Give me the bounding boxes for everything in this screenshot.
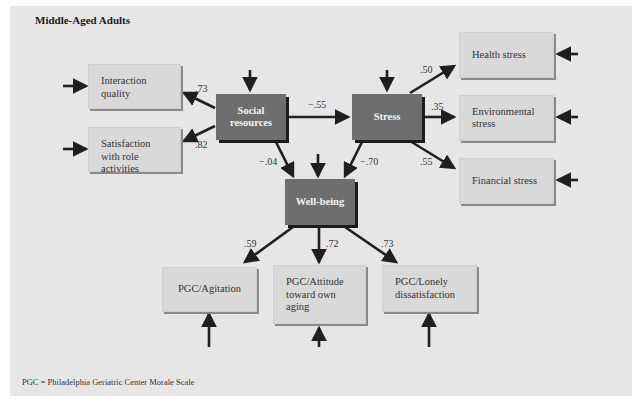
node-label: PGC/Agitation: [178, 283, 241, 296]
coef-wellbeing-attitude: .72: [326, 238, 339, 249]
node-pgc-agitation: PGC/Agitation: [162, 267, 257, 312]
node-label: PGC/Lonely dissatisfaction: [395, 276, 464, 301]
coef-wellbeing-lonely: .73: [381, 238, 394, 249]
node-environmental-stress: Environmental stress: [459, 95, 554, 141]
node-label: Well-being: [296, 196, 344, 209]
coef-social-interaction: .73: [195, 83, 208, 94]
node-stress: Stress: [352, 94, 422, 140]
node-label: Interaction quality: [101, 75, 146, 99]
node-label: Satisfaction with role activities: [101, 138, 151, 174]
node-financial-stress: Financial stress: [459, 158, 554, 204]
node-label: Social resources: [216, 105, 286, 130]
coef-stress-financial: .55: [420, 156, 433, 167]
coef-stress-wellbeing: −.70: [360, 156, 378, 167]
node-health-stress: Health stress: [459, 32, 554, 78]
node-social-resources: Social resources: [216, 94, 286, 140]
coef-stress-environmental: .35: [431, 101, 444, 112]
node-interaction-quality: Interaction quality: [88, 64, 181, 109]
coef-social-wellbeing: −.04: [259, 156, 277, 167]
coef-stress-health: .50: [420, 64, 433, 75]
node-satisfaction-role: Satisfaction with role activities: [88, 127, 181, 172]
node-label: Health stress: [472, 49, 526, 62]
footnote: PGC = Philadelphia Geriatric Center Mora…: [22, 377, 194, 387]
node-pgc-attitude: PGC/Attitude toward own aging: [273, 265, 366, 324]
node-well-being: Well-being: [285, 179, 355, 225]
node-label: Stress: [374, 111, 401, 124]
node-pgc-lonely: PGC/Lonely dissatisfaction: [382, 265, 477, 312]
coef-wellbeing-agitation: .59: [244, 238, 257, 249]
coef-social-stress: −.55: [308, 99, 326, 110]
node-label: Environmental stress: [472, 106, 541, 131]
coef-social-satisfaction: .82: [195, 139, 208, 150]
node-label: Financial stress: [472, 175, 537, 188]
node-label: PGC/Attitude toward own aging: [286, 276, 344, 312]
